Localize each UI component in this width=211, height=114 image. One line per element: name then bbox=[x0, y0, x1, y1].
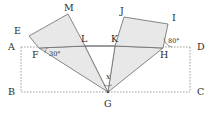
vertex-label-M: M bbox=[64, 2, 74, 13]
angle-label-H: 80° bbox=[168, 37, 180, 45]
vertex-label-L: L bbox=[81, 33, 88, 44]
vertex-label-G: G bbox=[104, 98, 112, 109]
vertex-label-D: D bbox=[197, 41, 205, 52]
vertex-label-F: F bbox=[32, 49, 39, 60]
vertex-label-I: I bbox=[172, 12, 176, 23]
vertex-dot-G bbox=[107, 91, 110, 94]
quad-EMLF bbox=[29, 14, 85, 48]
vertex-label-H: H bbox=[160, 49, 168, 60]
geometry-figure: A B C D E F G H I J K L M 30° 80° x bbox=[0, 0, 211, 114]
vertex-label-E: E bbox=[14, 25, 21, 36]
vertex-label-K: K bbox=[111, 33, 119, 44]
vertex-label-C: C bbox=[197, 86, 204, 97]
vertex-label-B: B bbox=[8, 86, 15, 97]
vertex-label-A: A bbox=[7, 41, 15, 52]
angle-label-F: 30° bbox=[49, 50, 61, 58]
quad-JIHK bbox=[115, 17, 168, 48]
triangle-KHG bbox=[108, 46, 163, 92]
vertex-label-J: J bbox=[119, 5, 124, 16]
geometry-canvas: A B C D E F G H I J K L M 30° 80° x bbox=[0, 0, 211, 114]
